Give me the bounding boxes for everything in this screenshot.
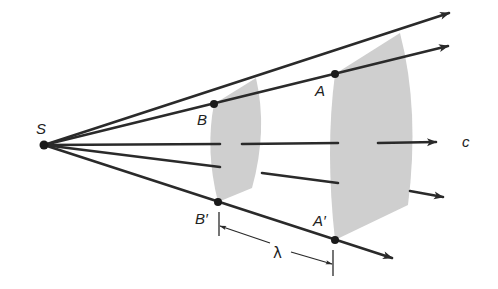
label-c: c [462, 133, 470, 150]
label-a-prime: A′ [312, 212, 327, 229]
label-b-prime: B′ [195, 210, 209, 227]
point-b [210, 100, 218, 108]
source-point-s [40, 141, 49, 150]
point-a-prime [331, 236, 339, 244]
ray-3-seg-1 [44, 144, 220, 145]
point-a [331, 70, 339, 78]
ray-3-seg-2 [242, 143, 338, 144]
wavefront-diagram: S B B′ A A′ λ c [0, 0, 498, 289]
ray-3-seg-3 [378, 142, 436, 143]
lambda-arrow-left [220, 226, 270, 243]
wavefront-near [210, 78, 261, 202]
label-a: A [314, 82, 325, 99]
ray-4-seg-2 [262, 173, 338, 183]
point-b-prime [214, 198, 222, 206]
label-lambda: λ [273, 244, 282, 262]
label-b: B [197, 111, 207, 128]
label-s: S [36, 120, 46, 137]
lambda-arrow-right [291, 252, 332, 264]
ray-4-seg-3 [410, 191, 443, 197]
ray-4-seg-1 [44, 145, 220, 167]
